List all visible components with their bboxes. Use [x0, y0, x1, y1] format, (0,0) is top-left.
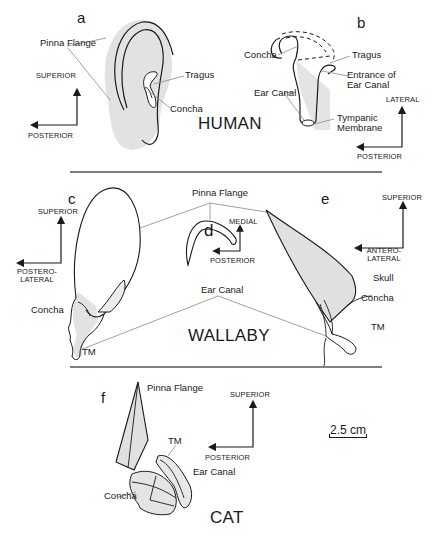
panel-letter-c: c [68, 190, 76, 207]
panel-letter-e: e [321, 190, 329, 207]
species-label-cat: CAT [210, 508, 244, 528]
axis-label-superior-e: SUPERIOR [382, 194, 422, 202]
axis-label-postero-lateral-c: POSTERO-LATERAL [12, 268, 62, 284]
label-concha-f: Concha [104, 491, 137, 501]
axis-label-superior-c: SUPERIOR [38, 208, 78, 216]
label-entrance-of-ear-canal: Entrance of Ear Canal [347, 70, 409, 90]
axis-label-superior-f: SUPERIOR [230, 391, 270, 399]
wallaby-ear-side-drawing [69, 188, 141, 360]
human-ear-canal-drawing [271, 32, 335, 130]
label-pinna-flange-wallaby: Pinna Flange [192, 188, 248, 198]
panel-e-axis-arrows [358, 205, 403, 248]
human-ear-drawing [105, 20, 173, 150]
species-label-wallaby: WALLABY [188, 326, 270, 346]
axis-label-posterior-a: POSTERIOR [28, 132, 73, 140]
axis-label-posterior-d: POSTERIOR [210, 257, 255, 265]
label-tm-e: TM [371, 322, 385, 332]
panel-letter-a: a [77, 9, 85, 26]
label-concha-c: Concha [31, 305, 64, 315]
label-pinna-flange-f: Pinna Flange [147, 383, 203, 393]
label-concha-a: Concha [170, 104, 203, 114]
panel-letter-f: f [101, 389, 105, 406]
axis-label-antero-lateral-e: ANTERO-LATERAL [361, 247, 407, 263]
label-tragus-b: Tragus [352, 50, 381, 60]
panel-letter-d: d [204, 221, 213, 241]
axis-label-lateral-b: LATERAL [386, 96, 420, 104]
panel-letter-b: b [357, 14, 365, 31]
label-ear-canal-b: Ear Canal [254, 88, 296, 98]
label-tympanic-membrane: Tympanic Membrane [337, 113, 392, 133]
species-label-human: HUMAN [198, 114, 262, 134]
wallaby-ear-front-drawing [266, 210, 372, 366]
axis-label-posterior-b: POSTERIOR [357, 153, 402, 161]
axis-label-medial-d: MEDIAL [229, 218, 258, 226]
label-pinna-flange-a: Pinna Flange [40, 38, 74, 48]
label-ear-canal-f: Ear Canal [193, 467, 235, 477]
label-tragus-a: Tragus [185, 70, 214, 80]
label-skull-e: Skull [373, 273, 394, 283]
label-tm-c: TM [82, 347, 96, 357]
axis-label-posterior-f: POSTERIOR [205, 454, 250, 462]
axis-arrows-a [34, 92, 77, 125]
label-tm-f: TM [168, 436, 182, 446]
label-ear-canal-wallaby: Ear Canal [201, 285, 243, 295]
label-concha-e: Concha [361, 293, 394, 303]
axis-label-superior-a: SUPERIOR [36, 72, 76, 80]
panel-c-axis-arrows [20, 220, 61, 263]
panel-f-axis-arrows [212, 404, 253, 447]
label-concha-b: Concha [244, 50, 277, 60]
scale-bar: 2.5 cm [329, 423, 367, 438]
